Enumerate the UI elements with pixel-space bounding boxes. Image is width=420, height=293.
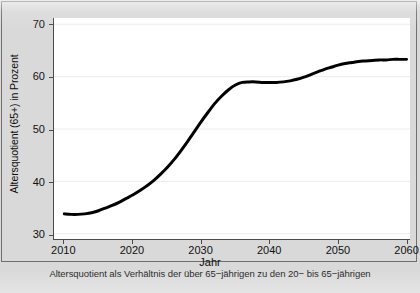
x-tick-mark-2050 [338, 240, 339, 244]
x-tick-mark-2030 [201, 240, 202, 244]
y-tick-mark-70 [49, 24, 53, 25]
x-tick-label-2030: 2030 [181, 244, 221, 256]
x-axis-title: Jahr [0, 256, 420, 268]
x-tick-label-2050: 2050 [318, 244, 358, 256]
x-tick-label-2010: 2010 [43, 244, 83, 256]
x-tick-label-2060: 2060 [387, 244, 420, 256]
plot-area [53, 18, 410, 240]
y-tick-label-40: 40 [19, 177, 45, 188]
gridlines-group [54, 24, 410, 233]
x-tick-label-2020: 2020 [112, 244, 152, 256]
x-tick-mark-2040 [269, 240, 270, 244]
x-tick-mark-2060 [407, 240, 408, 244]
y-tick-label-30: 30 [19, 229, 45, 240]
x-tick-mark-2020 [132, 240, 133, 244]
x-tick-label-2040: 2040 [249, 244, 289, 256]
y-tick-label-70: 70 [19, 19, 45, 30]
y-tick-mark-30 [49, 235, 53, 236]
line-series-svg [54, 18, 410, 239]
y-tick-mark-50 [49, 130, 53, 131]
x-tick-mark-2010 [63, 240, 64, 244]
y-tick-mark-60 [49, 77, 53, 78]
figure-container: Altersquotient (65+) in Prozent Jahr Alt… [0, 0, 420, 293]
y-tick-label-50: 50 [19, 124, 45, 135]
figure-caption: Altersquotient als Verhältnis der über 6… [0, 268, 420, 279]
y-tick-label-60: 60 [19, 71, 45, 82]
series-path-altersquotient [64, 59, 406, 214]
y-tick-mark-40 [49, 182, 53, 183]
